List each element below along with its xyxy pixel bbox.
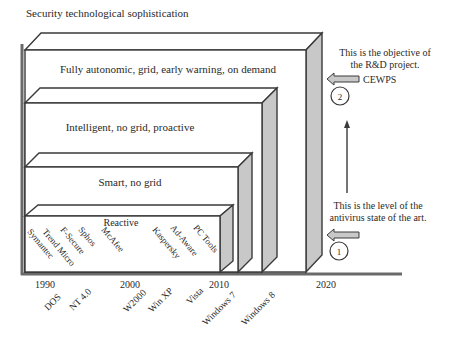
level-label-intelligent: Intelligent, no grid, proactive — [66, 121, 195, 133]
year-1990: 1990 — [35, 279, 55, 290]
cewps-label: CEWPS — [363, 74, 396, 85]
diagram-canvas: Security technological sophistication Fu… — [0, 0, 449, 343]
diagram-title: Security technological sophistication — [26, 7, 189, 19]
marker-1-label: 1 — [337, 247, 342, 257]
state-text-line1: This is the level of the — [333, 200, 423, 211]
os-windows-8: Windows 8 — [239, 290, 277, 328]
level-label-smart: Smart, no grid — [98, 176, 162, 188]
state-text-line2: antivirus state of the art. — [330, 212, 427, 223]
arrow-left-icon-cewps — [327, 73, 359, 85]
year-2020: 2020 — [316, 279, 336, 290]
level-label-fully-autonomic: Fully autonomic, grid, early warning, on… — [60, 63, 276, 75]
os-nt4: NT 4.0 — [67, 286, 93, 312]
os-winxp: Win XP — [146, 286, 175, 315]
objective-text-line1: This is the objective of — [339, 47, 431, 58]
objective-text-line2: the R&D project. — [350, 59, 419, 70]
year-2000: 2000 — [120, 279, 140, 290]
arrow-up-icon — [344, 120, 350, 193]
os-vista: Vista — [184, 285, 205, 306]
os-windows-7: Windows 7 — [200, 290, 238, 328]
os-dos: DOS — [42, 292, 63, 313]
year-2010: 2010 — [209, 279, 229, 290]
arrow-left-icon-state — [327, 229, 359, 241]
marker-2-label: 2 — [338, 92, 343, 102]
os-w2000: W2000 — [121, 287, 148, 314]
